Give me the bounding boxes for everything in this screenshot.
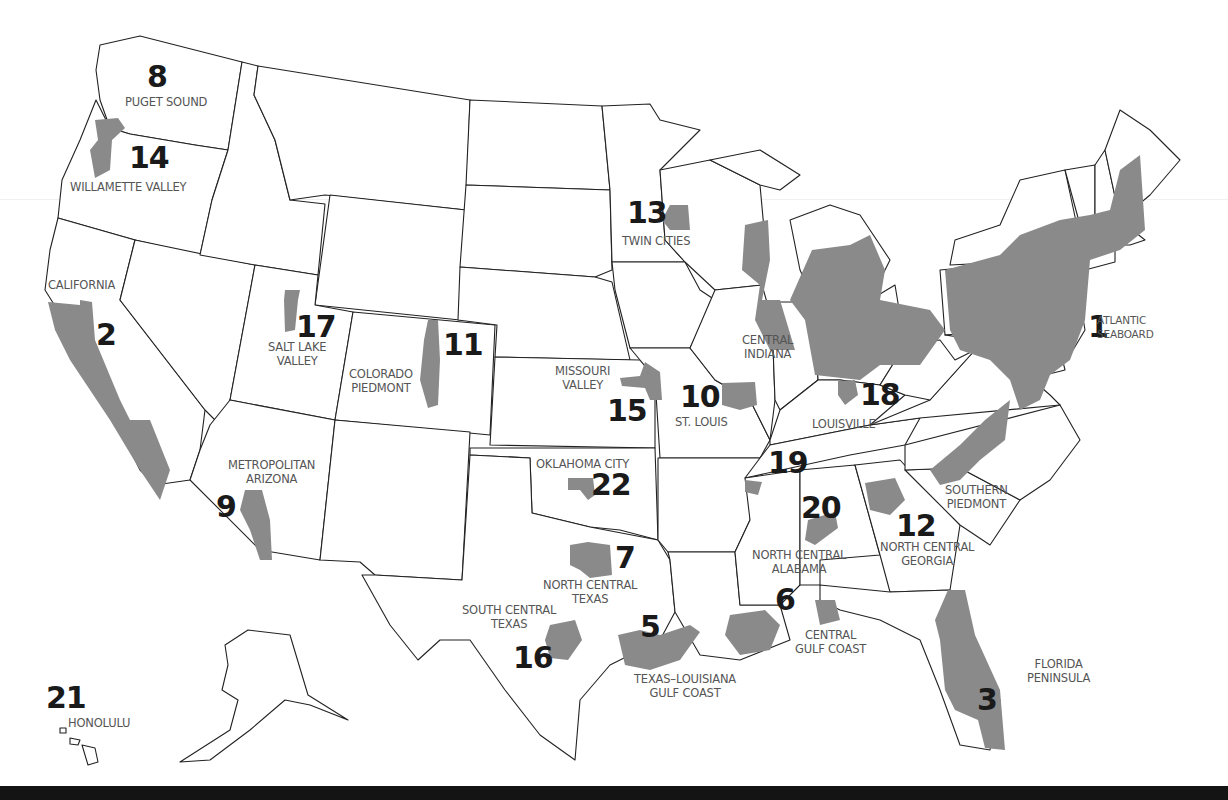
region-number-8: 8 [147, 62, 167, 92]
region-number-6: 6 [775, 585, 795, 615]
region-label-missouri-valley: MISSOURI VALLEY [555, 364, 610, 392]
state-north-dakota [466, 100, 610, 190]
region-number-9: 9 [216, 492, 236, 522]
region-number-11: 11 [443, 330, 483, 360]
region-number-7: 7 [615, 543, 635, 573]
region-label-louisville: LOUISVILLE [812, 417, 876, 431]
region-number-5: 5 [640, 612, 660, 642]
region-number-3: 3 [977, 685, 997, 715]
label-line-1: SALT LAKE [268, 340, 326, 354]
state-south-dakota [460, 185, 612, 277]
footer-bar [0, 786, 1228, 800]
region-number-16: 16 [513, 643, 553, 673]
region-number-14: 14 [129, 143, 169, 173]
region-label-north-central-alabama: NORTH CENTRAL ALABAMA [752, 548, 846, 576]
label-line-2: ALABAMA [772, 562, 827, 576]
region-label-north-central-texas: NORTH CENTRAL TEXAS [543, 578, 637, 606]
region-number-12: 12 [896, 511, 936, 541]
label-line-1: FLORIDA [1035, 657, 1083, 671]
region-label-south-central-texas: SOUTH CENTRAL TEXAS [462, 603, 556, 631]
region-number-17: 17 [296, 312, 336, 342]
label-line-2: PENINSULA [1027, 671, 1090, 685]
region-label-north-central-georgia: NORTH CENTRAL GEORGIA [880, 540, 974, 568]
label-line-1: METROPOLITAN [228, 458, 315, 472]
label-line-1: NORTH CENTRAL [752, 548, 846, 562]
region-label-puget-sound: PUGET SOUND [125, 95, 207, 109]
label-line-2: VALLEY [277, 354, 318, 368]
label-line-2: TEXAS [572, 592, 608, 606]
label-line-1: ATLANTIC [1097, 314, 1146, 326]
region-area-10 [722, 382, 757, 410]
label-line-1: NORTH CENTRAL [543, 578, 637, 592]
label-line-1: SOUTHERN [945, 483, 1008, 497]
label-line-2: VALLEY [562, 378, 603, 392]
label-line-1: COLORADO [349, 367, 413, 381]
region-label-atlantic-seaboard-text: ATLANTIC SEABOARD [1097, 313, 1154, 341]
region-label-willamette-valley: WILLAMETTE VALLEY [70, 180, 186, 194]
region-number-21: 21 [46, 683, 86, 713]
region-label-florida-peninsula: FLORIDA PENINSULA [1027, 657, 1090, 685]
region-label-central-indiana: CENTRAL INDIANA [742, 333, 793, 361]
region-label-metropolitan-arizona: METROPOLITAN ARIZONA [228, 458, 315, 486]
label-line-2: SEABOARD [1097, 328, 1154, 340]
label-line-2: ARIZONA [246, 472, 297, 486]
region-number-15: 15 [607, 396, 647, 426]
label-line-1: NORTH CENTRAL [880, 540, 974, 554]
region-number-18: 18 [860, 380, 900, 410]
label-line-2: GULF COAST [795, 642, 866, 656]
label-line-2: PIEDMONT [351, 381, 410, 395]
label-line-1: CENTRAL [805, 628, 856, 642]
state-alaska [180, 630, 348, 762]
region-area-michigan-ohio [790, 235, 945, 380]
label-line-1: SOUTH CENTRAL [462, 603, 556, 617]
region-number-22: 22 [591, 470, 631, 500]
state-hawaii [60, 728, 98, 765]
label-line-1: CENTRAL [742, 333, 793, 347]
label-line-1: MISSOURI [555, 364, 610, 378]
region-label-st-louis: ST. LOUIS [675, 415, 728, 429]
state-new-mexico [320, 420, 470, 580]
label-line-2: INDIANA [744, 347, 791, 361]
region-label-colorado-piedmont: COLORADO PIEDMONT [349, 367, 413, 395]
region-number-2: 2 [96, 320, 116, 350]
region-label-texas-louisiana-gulf-coast: TEXAS–LOUISIANA GULF COAST [634, 672, 736, 700]
region-label-central-gulf-coast: CENTRAL GULF COAST [795, 628, 866, 656]
region-number-10: 10 [680, 382, 720, 412]
region-number-13: 13 [627, 198, 667, 228]
region-label-southern-piedmont: SOUTHERN PIEDMONT [945, 483, 1008, 511]
label-line-2: TEXAS [491, 617, 527, 631]
label-line-2: GEORGIA [901, 554, 953, 568]
region-number-19: 19 [768, 448, 808, 478]
label-line-1: TEXAS–LOUISIANA [634, 672, 736, 686]
region-number-20: 20 [801, 493, 841, 523]
region-label-salt-lake-valley: SALT LAKE VALLEY [268, 340, 326, 368]
label-line-2: GULF COAST [649, 686, 720, 700]
region-label-honolulu: HONOLULU [68, 716, 130, 730]
state-wyoming [315, 195, 466, 320]
region-label-california: CALIFORNIA [48, 278, 115, 292]
label-line-2: PIEDMONT [947, 497, 1006, 511]
region-label-twin-cities: TWIN CITIES [622, 234, 690, 248]
